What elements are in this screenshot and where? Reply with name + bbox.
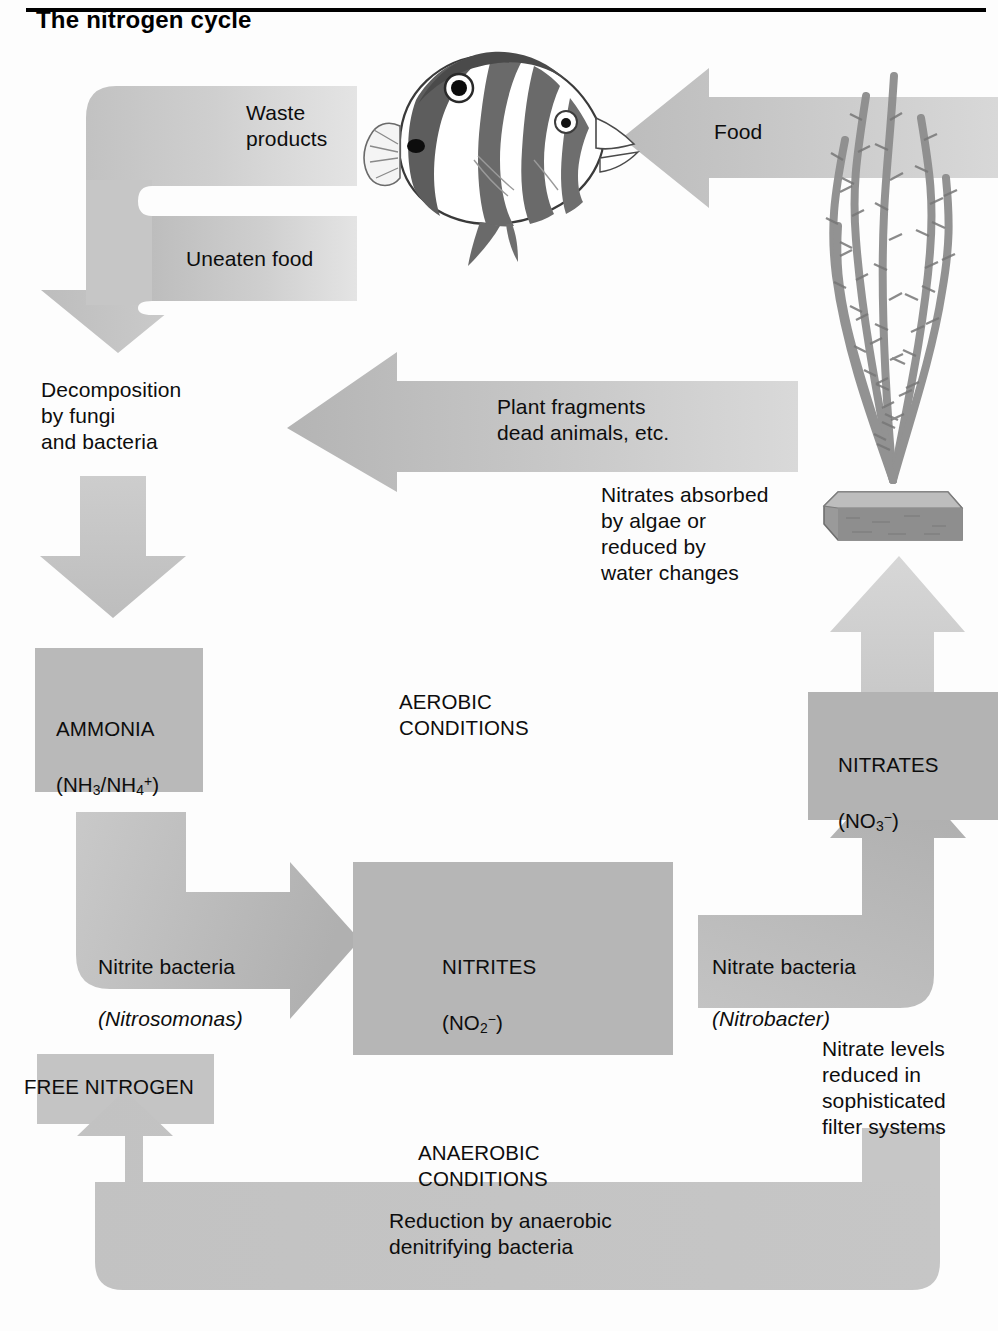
prong-gap [138,186,357,216]
uneaten-food-label: Uneaten food [186,246,313,272]
nitrite-bacteria-text: Nitrite bacteria [98,955,235,978]
nitrate-bacteria-label: Nitrate bacteria (Nitrobacter) [712,928,856,1032]
anaerobic-conditions-label: ANAEROBIC CONDITIONS [418,1140,548,1192]
waste-products-label: Waste products [246,100,327,152]
free-nitrogen-label: FREE NITROGEN [24,1074,194,1100]
top-rule [26,8,986,12]
nitrate-levels-label: Nitrate levels reduced in sophisticated … [822,1036,946,1140]
nitrates-to-plant-arrow [830,556,965,700]
nitrites-formula: (NO2−) [442,1011,503,1034]
food-label: Food [714,119,762,145]
decomposition-to-ammonia-arrow [40,476,186,618]
nitrates-box-label: NITRATES (NO3−) [838,726,939,839]
nitrite-bacteria-label: Nitrite bacteria (Nitrosomonas) [98,928,243,1032]
nitrates-formula: (NO3−) [838,809,899,832]
nitrogen-cycle-figure: The nitrogen cycle [0,0,998,1331]
nitrites-name: NITRITES [442,955,536,978]
nitrates-absorbed-label: Nitrates absorbed by algae or reduced by… [601,482,768,586]
nitrates-name: NITRATES [838,753,939,776]
ammonia-formula: (NH3/NH4+) [56,773,159,796]
prong-gap-2 [138,301,357,315]
nitrate-bacteria-text: Nitrate bacteria [712,955,856,978]
plant-fragments-label: Plant fragments dead animals, etc. [497,394,669,446]
reduction-label: Reduction by anaerobic denitrifying bact… [389,1208,612,1260]
fish-illustration [364,52,638,266]
nitrites-box-label: NITRITES (NO2−) [442,928,536,1041]
diagram-stage: Waste products Uneaten food Food Decompo… [0,0,998,1331]
nitrosomonas-text: (Nitrosomonas) [98,1007,243,1030]
decomposition-label: Decomposition by fungi and bacteria [41,377,181,455]
ammonia-name: AMMONIA [56,717,155,740]
nitrobacter-text: (Nitrobacter) [712,1007,830,1030]
ammonia-box-label: AMMONIA (NH3/NH4+) [56,690,159,803]
food-arrow [622,68,998,208]
aerobic-conditions-label: AEROBIC CONDITIONS [399,689,529,741]
